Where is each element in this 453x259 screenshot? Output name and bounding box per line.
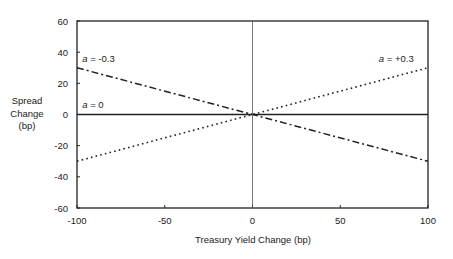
x-axis-label: Treasury Yield Change (bp) [195, 234, 311, 245]
x-tick-label: -50 [158, 215, 172, 226]
y-tick-label: 20 [57, 78, 68, 89]
y-axis-label-line3: (bp) [19, 120, 36, 131]
x-tick-label: 0 [250, 215, 255, 226]
y-tick-label: -60 [54, 203, 68, 214]
y-tick-label: 60 [57, 16, 68, 27]
series-annotation: a = -0.3 [82, 53, 115, 64]
series-annotations: a = -0.3a = 0a = +0.3 [82, 53, 413, 111]
y-tick-label: 40 [57, 47, 68, 58]
x-tick-label: -100 [67, 215, 86, 226]
y-axis-label-line1: Spread [12, 95, 43, 106]
y-tick-label: 0 [63, 109, 68, 120]
y-tick-label: -40 [54, 171, 68, 182]
y-tick-label: -20 [54, 140, 68, 151]
x-tick-label: 50 [335, 215, 346, 226]
series-annotation: a = 0 [82, 99, 103, 110]
series-annotation: a = +0.3 [379, 53, 414, 64]
chart: 6040200-20-40-60 -100-50050100 a = -0.3a… [0, 0, 453, 259]
y-axis-ticks: 6040200-20-40-60 [54, 16, 80, 214]
y-axis-label-line2: Change [10, 108, 43, 119]
x-tick-label: 100 [420, 215, 436, 226]
